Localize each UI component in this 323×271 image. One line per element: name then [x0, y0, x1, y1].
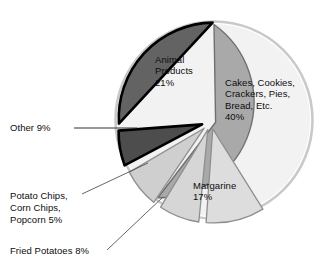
slice-label-cakes-cookies-crackers-pies-bread: Cakes, Cookies, Crackers, Pies, Bread, E… — [225, 77, 295, 123]
callout-label-potato-chips-corn-chips-popcorn: Potato Chips, Corn Chips, Popcorn 5% — [10, 190, 68, 227]
pie-chart: Cakes, Cookies, Crackers, Pies, Bread, E… — [0, 0, 323, 271]
slice-label-animal-products: Animal Products 21% — [155, 54, 193, 88]
callout-label-fried-potatoes: Fried Potatoes 8% — [10, 245, 89, 257]
callout-label-other: Other 9% — [10, 122, 51, 134]
slice-label-margarine: Margarine 17% — [193, 180, 236, 203]
pie-chart-graphic — [0, 0, 323, 271]
leader-line-fried-potatoes — [107, 197, 163, 250]
